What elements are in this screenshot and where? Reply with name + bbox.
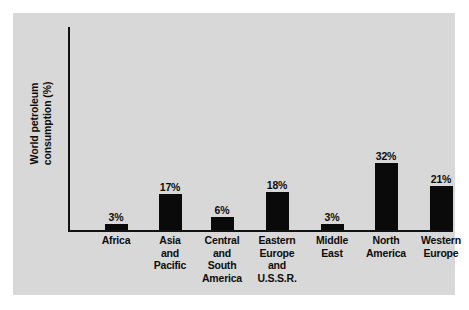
bar-value-label: 18%: [267, 179, 287, 191]
bar-value-label: 3%: [109, 211, 124, 223]
bar-value-label: 32%: [376, 150, 396, 162]
plot-area: 3%17%6%18%3%32%21%: [70, 27, 453, 230]
bar-rect[interactable]: [375, 163, 398, 230]
category-label: WesternEurope: [401, 234, 469, 259]
bar-rect[interactable]: [159, 194, 182, 230]
category-label-line: Western: [401, 234, 469, 247]
bar-value-label: 3%: [325, 211, 340, 223]
category-label-line: U.S.S.R.: [237, 272, 317, 285]
y-axis-title-line-1: World petroleum: [28, 49, 41, 199]
bar-value-label: 6%: [215, 204, 230, 216]
y-axis-title: World petroleum consumption (%): [28, 49, 53, 199]
bar-rect[interactable]: [430, 186, 453, 230]
bar-rect[interactable]: [211, 217, 234, 230]
bar-rect[interactable]: [266, 192, 289, 230]
x-axis-line: [68, 230, 453, 232]
category-label-line: Europe: [401, 247, 469, 260]
bar-column: 21%: [401, 173, 469, 230]
category-axis-labels: AfricaAsiaandPacificCentralandSouthAmeri…: [70, 234, 453, 294]
category-label-line: and: [237, 259, 317, 272]
bar-value-label: 21%: [431, 173, 451, 185]
y-axis-title-line-2: consumption (%): [40, 49, 53, 199]
bar-rect[interactable]: [321, 224, 344, 230]
chart-figure: World petroleum consumption (%) 3%17%6%1…: [13, 13, 455, 295]
bar-value-label: 17%: [160, 181, 180, 193]
bar-rect[interactable]: [105, 224, 128, 230]
bar-group: 21%: [401, 27, 469, 230]
